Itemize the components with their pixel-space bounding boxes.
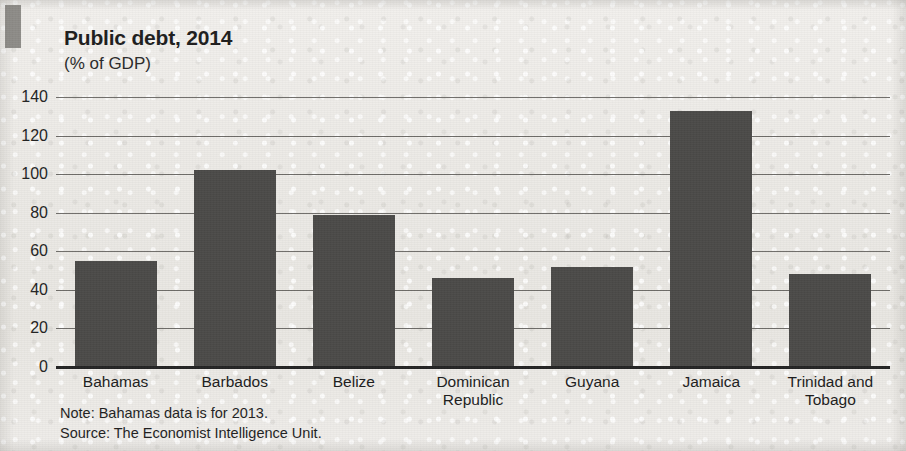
page-margin-mark [5, 5, 21, 48]
x-axis-tick-label: Belize [333, 373, 375, 390]
x-axis-category-label: Guyana [533, 373, 652, 391]
bar [75, 261, 157, 367]
x-axis-category-label: Bahamas [56, 373, 175, 391]
x-axis-tick-label: Jamaica [682, 373, 740, 390]
gridline [56, 174, 890, 175]
x-axis-tick-label-line2: Tobago [771, 391, 890, 409]
bar [432, 278, 514, 367]
bar [551, 267, 633, 367]
x-axis-category-label: Barbados [175, 373, 294, 391]
x-axis-baseline [56, 366, 890, 369]
x-axis-tick-label: Guyana [565, 373, 619, 390]
y-axis-tick-label: 80 [0, 204, 48, 222]
bar [670, 111, 752, 368]
x-axis-tick-label: Dominican [436, 373, 509, 390]
y-axis-tick-label: 20 [0, 319, 48, 337]
gridline [56, 213, 890, 214]
bar [789, 274, 871, 367]
x-axis-tick-label-line2: Republic [413, 391, 532, 409]
plot-area: 020406080100120140 [56, 97, 890, 367]
y-axis-tick-label: 0 [0, 358, 48, 376]
gridline [56, 251, 890, 252]
chart-source: Source: The Economist Intelligence Unit. [60, 424, 322, 444]
x-axis-category-label: Belize [294, 373, 413, 391]
y-axis-tick-label: 60 [0, 242, 48, 260]
y-axis-tick-label: 100 [0, 165, 48, 183]
x-axis-category-label: DominicanRepublic [413, 373, 532, 409]
bar [194, 170, 276, 367]
gridline [56, 97, 890, 98]
chart-note: Note: Bahamas data is for 2013. [60, 404, 322, 424]
chart-title: Public debt, 2014 [64, 26, 232, 50]
x-axis-tick-label: Bahamas [83, 373, 148, 390]
gridline [56, 136, 890, 137]
chart-footnotes: Note: Bahamas data is for 2013. Source: … [60, 404, 322, 443]
bar [313, 215, 395, 367]
chart-subtitle: (% of GDP) [64, 54, 151, 74]
y-axis-tick-label: 140 [0, 88, 48, 106]
y-axis-tick-label: 40 [0, 281, 48, 299]
x-axis-tick-label: Trinidad and [788, 373, 874, 390]
x-axis-category-label: Jamaica [652, 373, 771, 391]
x-axis-tick-label: Barbados [202, 373, 268, 390]
chart-figure: Public debt, 2014 (% of GDP) 02040608010… [0, 0, 906, 451]
y-axis-tick-label: 120 [0, 127, 48, 145]
x-axis-category-label: Trinidad andTobago [771, 373, 890, 409]
